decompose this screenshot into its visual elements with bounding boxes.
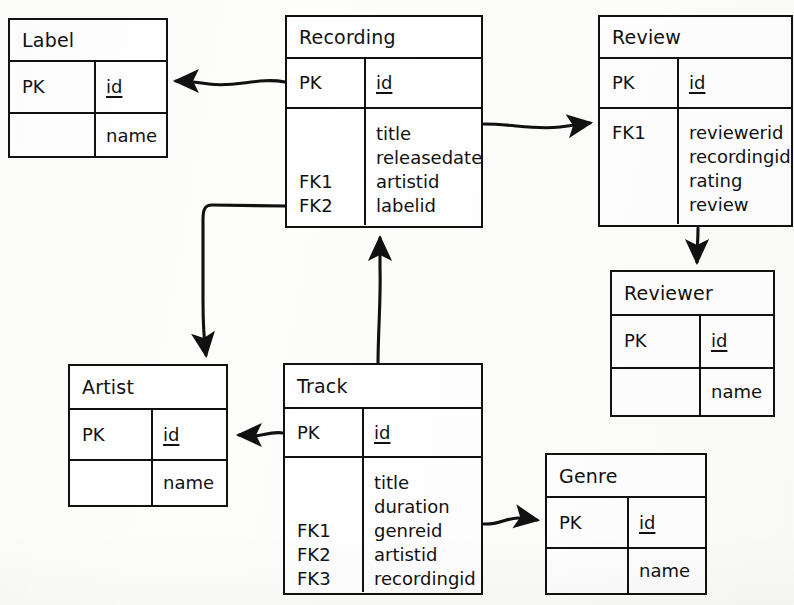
entity-track-key-label: PK	[285, 421, 362, 445]
entity-genre-title: Genre	[547, 455, 705, 498]
entity-track-attr-key	[297, 495, 367, 519]
entity-label-title: Label	[10, 20, 166, 62]
entity-artist-key-row: PK id	[70, 410, 226, 461]
entity-genre-attr-row: name	[547, 549, 705, 593]
entity-track-attr-row: FK1 FK2 FK3 title duration genreid artis…	[285, 458, 481, 592]
entity-track[interactable]: Track PK id FK1 FK2 FK3 title dura	[283, 363, 483, 595]
entity-reviewer-name: Reviewer	[624, 282, 713, 304]
entity-review-attr-key	[612, 193, 682, 217]
entity-review-attr-name: rating	[689, 169, 791, 193]
entity-recording-attr-name: title	[376, 122, 482, 146]
entity-genre-body: PK id name	[547, 498, 705, 593]
edge-recording-to-artist	[203, 205, 285, 355]
entity-label-body: PK id name	[10, 62, 166, 156]
entity-recording-attr-name: labelid	[376, 194, 482, 218]
entity-review[interactable]: Review PK id FK1 reviewerid recordingid	[598, 15, 793, 227]
entity-recording-attr-key: FK2	[299, 194, 369, 218]
edge-recording-to-label	[176, 81, 285, 85]
entity-review-attr-key: FK1	[612, 121, 682, 145]
entity-label[interactable]: Label PK id name	[8, 18, 168, 158]
entity-genre-name: Genre	[559, 465, 618, 487]
entity-recording-name: Recording	[299, 26, 396, 48]
entity-label-attr-row: name	[10, 114, 166, 158]
entity-review-attr-column: reviewerid recordingid rating review	[689, 121, 791, 217]
entity-track-attr-key: FK3	[297, 567, 367, 591]
entity-review-body: PK id FK1 reviewerid recordingid rating …	[600, 59, 791, 225]
entity-artist[interactable]: Artist PK id name	[68, 364, 228, 507]
edge-track-to-artist	[239, 433, 283, 437]
entity-track-attr-key: FK1	[297, 519, 367, 543]
entity-recording[interactable]: Recording PK id FK1 FK2 title releasedat…	[285, 15, 483, 228]
entity-artist-name: Artist	[82, 376, 134, 398]
entity-label-attr-name: name	[94, 124, 157, 148]
entity-track-attr-name: duration	[374, 495, 476, 519]
entity-reviewer-key-label: PK	[612, 329, 699, 353]
entity-reviewer[interactable]: Reviewer PK id name	[610, 270, 775, 417]
entity-label-key-label: PK	[10, 75, 94, 99]
entity-genre-key-row: PK id	[547, 498, 705, 549]
entity-track-title: Track	[285, 365, 481, 409]
entity-track-body: PK id FK1 FK2 FK3 title duration genreid…	[285, 409, 481, 593]
entity-recording-key-column: FK1 FK2	[299, 122, 369, 218]
entity-recording-body: PK id FK1 FK2 title releasedate artistid…	[287, 59, 481, 226]
entity-track-key-attribute: id	[362, 421, 390, 445]
entity-review-attr-name: recordingid	[689, 145, 791, 169]
entity-review-attr-row: FK1 reviewerid recordingid rating review	[600, 109, 791, 224]
entity-review-name: Review	[612, 26, 681, 48]
entity-review-attr-key	[612, 145, 682, 169]
edge-track-to-recording	[378, 238, 380, 366]
er-diagram-canvas: Label PK id name Recording PK id	[0, 0, 794, 605]
entity-artist-attr-name: name	[151, 471, 214, 495]
entity-label-name: Label	[22, 29, 74, 51]
entity-reviewer-attr-row: name	[612, 369, 773, 415]
entity-recording-key-row: PK id	[287, 59, 481, 109]
entity-reviewer-key-attribute: id	[699, 329, 727, 353]
entity-review-key-attribute: id	[677, 71, 705, 95]
entity-label-key-row: PK id	[10, 62, 166, 114]
entity-track-key-column: FK1 FK2 FK3	[297, 471, 367, 591]
entity-track-attr-name: recordingid	[374, 567, 476, 591]
edge-track-to-genre	[484, 518, 537, 524]
entity-track-attr-key	[297, 471, 367, 495]
entity-review-key-label: PK	[600, 71, 677, 95]
entity-track-attr-name: title	[374, 471, 476, 495]
entity-reviewer-key-row: PK id	[612, 316, 773, 369]
entity-reviewer-body: PK id name	[612, 316, 773, 415]
entity-track-name: Track	[297, 375, 348, 397]
entity-genre-key-label: PK	[547, 511, 627, 535]
entity-label-key-attribute: id	[94, 75, 122, 99]
entity-review-title: Review	[600, 17, 791, 59]
edge-review-to-reviewer	[697, 228, 698, 262]
entity-track-attr-column: title duration genreid artistid recordin…	[374, 471, 476, 591]
entity-recording-key-label: PK	[287, 71, 364, 95]
entity-track-key-row: PK id	[285, 409, 481, 458]
entity-artist-key-label: PK	[70, 423, 151, 447]
entity-genre[interactable]: Genre PK id name	[545, 453, 707, 595]
entity-reviewer-title: Reviewer	[612, 272, 773, 316]
entity-track-attr-key: FK2	[297, 543, 367, 567]
entity-genre-key-attribute: id	[627, 511, 655, 535]
entity-recording-attr-key	[299, 122, 369, 146]
entity-artist-key-attribute: id	[151, 423, 179, 447]
entity-reviewer-attr-name: name	[699, 380, 762, 404]
entity-track-attr-name: artistid	[374, 543, 476, 567]
entity-review-key-row: PK id	[600, 59, 791, 109]
entity-artist-attr-row: name	[70, 461, 226, 505]
entity-track-attr-name: genreid	[374, 519, 476, 543]
entity-review-attr-name: reviewerid	[689, 121, 791, 145]
edge-recording-to-review	[484, 123, 590, 128]
entity-recording-attr-row: FK1 FK2 title releasedate artistid label…	[287, 109, 481, 225]
entity-recording-title: Recording	[287, 17, 481, 59]
entity-genre-attr-name: name	[627, 559, 690, 583]
entity-review-attr-name: review	[689, 193, 791, 217]
entity-review-key-column: FK1	[612, 121, 682, 217]
entity-recording-attr-key	[299, 146, 369, 170]
entity-artist-title: Artist	[70, 366, 226, 410]
entity-recording-attr-column: title releasedate artistid labelid	[376, 122, 482, 218]
entity-recording-attr-key: FK1	[299, 170, 369, 194]
entity-artist-body: PK id name	[70, 410, 226, 505]
entity-recording-key-attribute: id	[364, 71, 392, 95]
entity-recording-attr-name: releasedate	[376, 146, 482, 170]
entity-recording-attr-name: artistid	[376, 170, 482, 194]
entity-review-attr-key	[612, 169, 682, 193]
